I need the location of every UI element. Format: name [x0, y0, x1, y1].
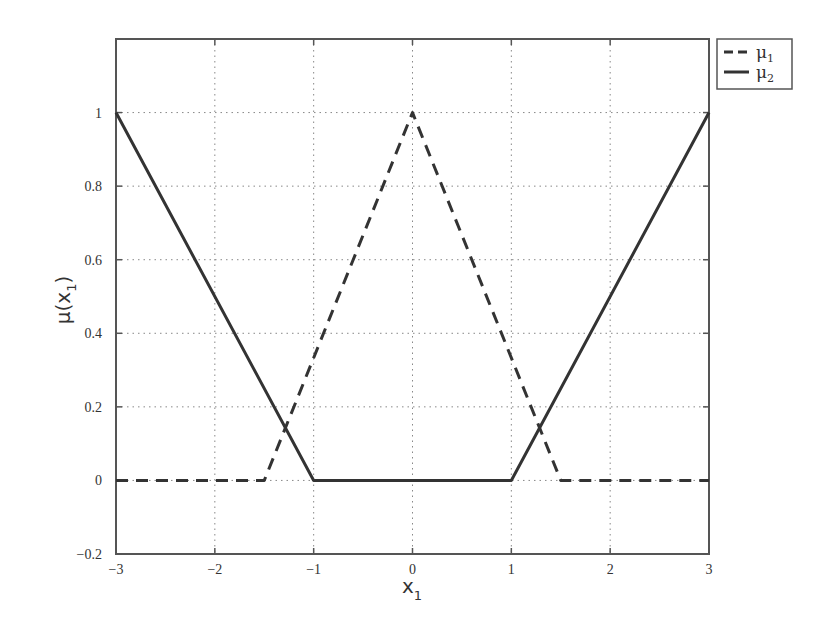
x-tick-label: 1 [508, 562, 515, 577]
tick-labels: −3−2−10123−0.200.20.40.60.81 [77, 106, 713, 577]
y-axis-label: μ(x1) [51, 276, 79, 324]
x-axis-label: x1 [402, 574, 422, 603]
y-tick-label: 0.2 [85, 400, 103, 415]
legend-box [717, 39, 792, 89]
x-tick-label: −3 [109, 562, 124, 577]
x-tick-label: −2 [207, 562, 222, 577]
x-tick-label: −1 [306, 562, 321, 577]
y-tick-label: −0.2 [77, 547, 102, 562]
y-tick-label: 1 [95, 106, 102, 121]
y-tick-label: 0 [95, 473, 102, 488]
y-tick-label: 0.8 [85, 179, 103, 194]
y-tick-label: 0.4 [85, 326, 103, 341]
x-tick-label: 3 [706, 562, 713, 577]
legend: μ1 μ2 [717, 39, 792, 89]
x-tick-label: 2 [607, 562, 614, 577]
y-tick-label: 0.6 [85, 253, 103, 268]
chart-canvas: −3−2−10123−0.200.20.40.60.81 x1 μ(x1) μ1… [0, 0, 831, 635]
